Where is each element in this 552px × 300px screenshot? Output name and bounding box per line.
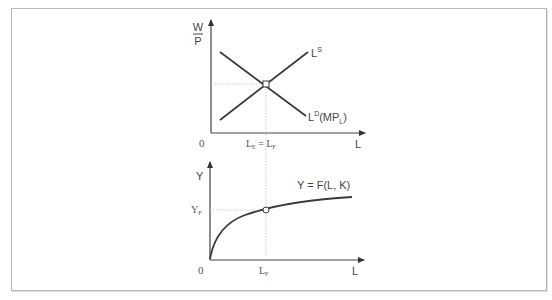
y-axis-label-p: P [194,35,201,47]
yf-tick-label: YF [191,204,202,216]
production-function-curve [210,197,352,259]
top-origin-label: 0 [199,137,205,149]
diagram-canvas: W P LS LD(MPL) 0 L LE = LF Y Y = F(L, K)… [0,0,552,300]
output-point [263,207,269,213]
bottom-x-axis-label: L [352,265,358,277]
supply-curve-label: LS [311,46,322,59]
labor-market-panel: W P LS LD(MPL) 0 L LE = LF [193,20,365,257]
y-axis-label-w: W [193,21,204,33]
bottom-y-axis-label: Y [196,170,204,182]
production-function-label: Y = F(L, K) [297,179,350,191]
production-function-panel: Y Y = F(L, K) YF 0 LF L [191,162,364,277]
equilibrium-point [263,81,269,87]
demand-curve-label: LD(MPL) [308,110,347,125]
equilibrium-employment-label: LE = LF [246,138,277,150]
top-x-axis-label: L [355,138,361,150]
lf-tick-label: LF [259,265,269,277]
bottom-origin-label: 0 [198,264,204,276]
